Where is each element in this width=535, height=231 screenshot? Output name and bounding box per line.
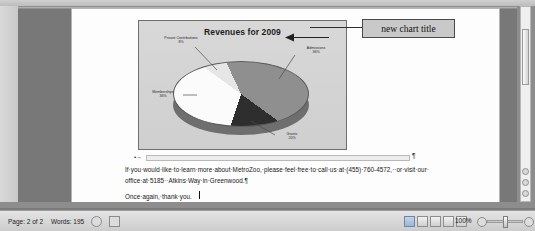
zoom-out-icon[interactable] [477,217,487,227]
zoom-level-label[interactable]: 100% [455,217,472,224]
proofing-icon[interactable] [91,216,102,227]
word-application-window: Revenues for 2009 Private Contributions … [0,0,535,231]
vertical-ruler[interactable] [0,6,19,202]
view-button-outline[interactable] [443,216,454,227]
scrollbar-thumb[interactable] [522,29,529,85]
previous-page-icon[interactable] [522,168,529,175]
view-button-full-screen-reading[interactable] [417,216,428,227]
language-icon[interactable] [109,216,120,227]
select-browse-object-icon[interactable] [522,179,529,186]
view-button-web-layout[interactable] [430,216,441,227]
zoom-slider-thumb[interactable] [503,216,508,228]
text-cursor [199,191,200,199]
label-leader-lines [139,21,346,149]
page-left-margin-band [18,9,72,202]
word-count[interactable]: Words: 195 [51,218,84,225]
workspace-guide-line [18,7,517,8]
view-button-print-layout[interactable] [404,216,415,227]
body-paragraph-line-1[interactable]: If·you·would·like·to·learn·more·about·Me… [125,166,429,173]
next-page-icon[interactable] [522,190,529,197]
paragraph-mark: ¶ [412,152,416,159]
document-workspace[interactable]: Revenues for 2009 Private Contributions … [18,6,517,202]
status-bar: Page: 2 of 2 Words: 195 100% [0,210,535,231]
formatting-marks: •→ [134,154,142,160]
page-right-margin-band [499,9,517,202]
zoom-in-icon[interactable] [524,217,534,227]
page-indicator[interactable]: Page: 2 of 2 [8,218,43,225]
selected-object-placeholder [146,155,410,161]
pie-chart-object[interactable]: Revenues for 2009 Private Contributions … [138,20,347,150]
vertical-scrollbar[interactable] [520,6,531,202]
document-page[interactable]: Revenues for 2009 Private Contributions … [72,9,499,202]
body-paragraph-line-3[interactable]: Once·again,·thank·you. [125,193,192,200]
body-paragraph-line-2[interactable]: office·at·5185··Atkins·Way·in·Greenwood.… [125,177,248,184]
callout-new-chart-title[interactable]: new chart title [362,19,455,38]
callout-connector-line [310,27,362,28]
